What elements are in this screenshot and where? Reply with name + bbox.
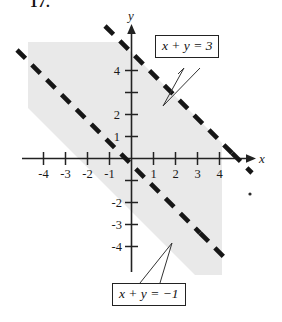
x-tick-label: -4 <box>38 167 49 181</box>
x-tick-label: 1 <box>150 167 156 181</box>
y-tick-label: -4 <box>112 240 123 254</box>
x-tick-label: 4 <box>216 167 223 181</box>
y-axis-label: y <box>126 8 134 23</box>
x-axis-label: x <box>258 151 265 166</box>
y-tick-label: -2 <box>112 196 122 210</box>
callout-lower-equation: x + y = −1 <box>112 283 186 306</box>
inequality-graph-figure: 17. <box>0 0 282 322</box>
y-tick-label: 2 <box>114 108 120 122</box>
x-tick-label: -1 <box>104 167 114 181</box>
x-tick-label: 3 <box>194 167 200 181</box>
x-tick-label: 2 <box>172 167 178 181</box>
exercise-number: 17. <box>30 0 50 11</box>
y-tick-label: 1 <box>114 130 120 144</box>
x-tick-label: -2 <box>82 167 92 181</box>
callout-leader-lower <box>140 243 172 283</box>
callout-upper-equation: x + y = 3 <box>155 35 219 58</box>
print-artifact-dot <box>248 192 251 195</box>
y-tick-label: -3 <box>112 218 122 232</box>
y-tick-label: 4 <box>114 64 121 78</box>
x-tick-label: -3 <box>60 167 70 181</box>
graph-canvas: -4 -3 -2 -1 1 2 3 4 4 2 1 -2 -3 -4 x y <box>0 0 282 322</box>
